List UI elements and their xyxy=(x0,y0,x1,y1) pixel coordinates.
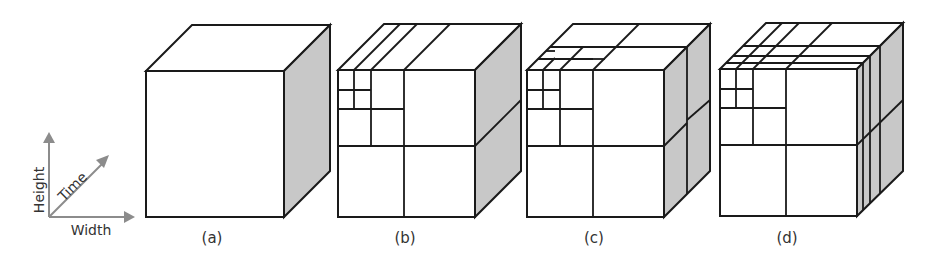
cube-front-face xyxy=(720,69,857,216)
panel-a-cube xyxy=(146,25,330,217)
width-axis-label: Width xyxy=(71,222,112,238)
time-axis-label: Time xyxy=(54,169,90,205)
panel-c-caption: (c) xyxy=(584,229,604,247)
cube-front-face xyxy=(338,70,475,217)
height-axis-arrowhead-icon xyxy=(43,132,55,143)
panel-b-cube xyxy=(338,24,521,217)
panel-d-caption: (d) xyxy=(776,229,797,247)
height-axis-label: Height xyxy=(31,166,47,213)
time-axis-arrowhead-icon xyxy=(96,155,109,168)
panel-b-caption: (b) xyxy=(394,229,415,247)
panel-d-cube xyxy=(720,23,903,216)
width-axis-arrowhead-icon xyxy=(124,211,135,223)
cube-front-face xyxy=(527,70,664,217)
cube-front-face xyxy=(146,71,284,217)
panel-a-caption: (a) xyxy=(202,229,223,247)
figure-canvas: Height Time Width (a) (b) xyxy=(0,0,932,255)
panel-c-cube xyxy=(527,24,710,217)
axis-indicator: Height Time Width xyxy=(31,132,135,238)
